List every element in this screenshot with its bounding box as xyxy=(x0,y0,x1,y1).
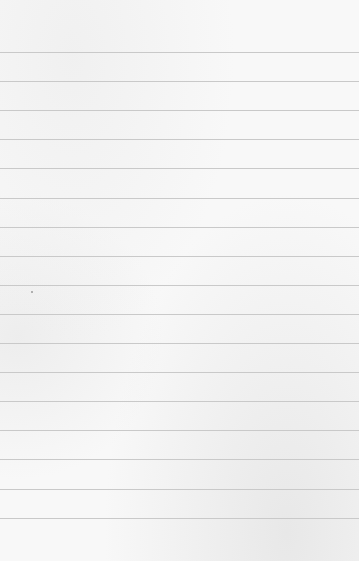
ruled-line xyxy=(0,518,359,519)
paper-speck xyxy=(31,291,33,293)
ruled-line xyxy=(0,52,359,53)
ruled-line xyxy=(0,314,359,315)
lined-paper xyxy=(0,0,359,561)
ruled-line xyxy=(0,227,359,228)
ruled-line xyxy=(0,256,359,257)
ruled-line xyxy=(0,139,359,140)
ruled-line xyxy=(0,343,359,344)
ruled-line xyxy=(0,110,359,111)
ruled-line xyxy=(0,285,359,286)
ruled-line xyxy=(0,401,359,402)
ruled-line xyxy=(0,430,359,431)
ruled-line xyxy=(0,168,359,169)
ruled-line xyxy=(0,459,359,460)
ruled-line xyxy=(0,372,359,373)
ruled-line xyxy=(0,198,359,199)
ruled-line xyxy=(0,81,359,82)
ruled-line xyxy=(0,489,359,490)
